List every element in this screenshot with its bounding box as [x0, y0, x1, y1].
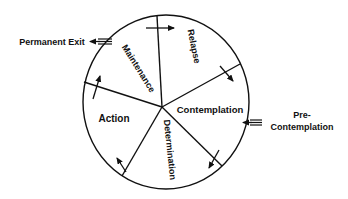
- arrow-determination-to-action-icon: [117, 158, 126, 172]
- entry-label-line2: Contemplation: [271, 122, 334, 132]
- arrow-contemplation-to-determination-icon: [209, 150, 219, 168]
- divider-maintenance-relapse: [157, 16, 162, 107]
- divider-relapse-contemplation: [162, 64, 240, 107]
- exit-label: Permanent Exit: [19, 37, 85, 47]
- entry-label-line1: Pre-: [293, 110, 311, 120]
- stage-label-determination: Determination: [162, 119, 178, 180]
- stage-label-contemplation: Contemplation: [177, 104, 244, 115]
- stage-label-maintenance: Maintenance: [120, 43, 157, 95]
- stage-label-relapse: Relapse: [185, 28, 202, 64]
- stage-label-action: Action: [98, 113, 129, 124]
- transition-arrows: [93, 28, 233, 172]
- stages-of-change-diagram: Relapse Contemplation Determination Acti…: [0, 0, 348, 199]
